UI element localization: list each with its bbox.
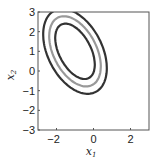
y-ticks: −3−2−10123 xyxy=(22,6,40,136)
x-axis-label: x1 xyxy=(86,145,97,159)
x-ticks: −202 xyxy=(47,128,133,145)
x-tick-label: 2 xyxy=(127,133,133,145)
x-tick-label: −2 xyxy=(47,133,60,145)
y-tick-label: 0 xyxy=(29,65,35,77)
y-tick-label: 1 xyxy=(29,45,35,57)
y-axis-label: x2 xyxy=(4,69,18,80)
y-tick-label: 2 xyxy=(29,26,35,38)
y-tick-label: −2 xyxy=(22,104,35,116)
y-tick-label: −3 xyxy=(22,124,35,136)
y-tick-label: −1 xyxy=(22,85,35,97)
x-tick-label: 0 xyxy=(90,133,96,145)
contour-group xyxy=(43,9,107,94)
y-tick-label: 3 xyxy=(29,6,35,18)
contour-chart: −202 −3−2−10123 x1 x2 xyxy=(0,0,159,163)
